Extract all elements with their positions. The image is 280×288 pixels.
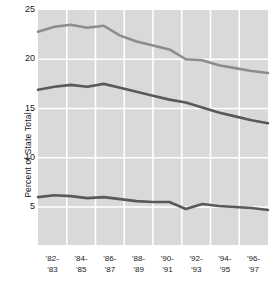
x-tick-label: '96-'97 [237,254,271,275]
y-tick-label: 20 [5,53,35,63]
y-tick-label: 25 [5,4,35,14]
y-tick-label: 5 [5,201,35,211]
x-tick-label-top: '96- [237,254,271,265]
plot-area [0,0,280,288]
x-tick-label-bottom: '97 [237,265,271,276]
y-axis-tick-labels: 510152025 [0,0,35,288]
y-tick-label: 10 [5,152,35,162]
chart-figure: Percent of State Total 510152025 '82-'83… [0,0,280,288]
y-tick-label: 15 [5,103,35,113]
